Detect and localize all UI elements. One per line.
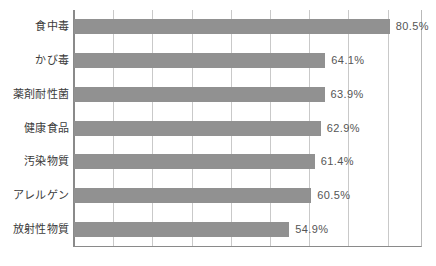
bar-6 [74,188,311,203]
bar-value-label: 61.4% [321,153,354,169]
bar-1 [74,19,390,34]
plot-area: 80.5%64.1%63.9%62.9%61.4%60.5%54.9% [73,10,422,247]
category-label: 薬剤耐性菌 [0,86,69,102]
category-label: 食中毒 [0,18,69,34]
category-label: かび毒 [0,52,69,68]
bar-4 [74,121,321,136]
category-label: アレルゲン [0,187,69,203]
bar-value-label: 54.9% [295,221,328,237]
bar-value-label: 62.9% [327,120,360,136]
bar-value-label: 60.5% [317,187,350,203]
category-axis-labels: 食中毒かび毒薬剤耐性菌健康食品汚染物質アレルゲン放射性物質 [0,10,69,247]
bar-chart: 食中毒かび毒薬剤耐性菌健康食品汚染物質アレルゲン放射性物質 80.5%64.1%… [0,0,436,266]
bar-row: 62.9% [74,112,421,146]
category-label: 放射性物質 [0,221,69,237]
bar-rows: 80.5%64.1%63.9%62.9%61.4%60.5%54.9% [74,10,421,246]
category-label: 健康食品 [0,120,69,136]
category-label: 汚染物質 [0,153,69,169]
bar-row: 60.5% [74,179,421,213]
bar-row: 54.9% [74,213,421,247]
bar-5 [74,154,315,169]
bar-value-label: 63.9% [331,86,364,102]
bar-row: 80.5% [74,10,421,44]
bar-row: 63.9% [74,78,421,112]
bar-row: 64.1% [74,44,421,78]
bar-7 [74,222,289,237]
bar-2 [74,53,325,68]
bar-row: 61.4% [74,145,421,179]
bar-value-label: 64.1% [331,52,364,68]
bar-3 [74,87,325,102]
bar-value-label: 80.5% [396,18,429,34]
